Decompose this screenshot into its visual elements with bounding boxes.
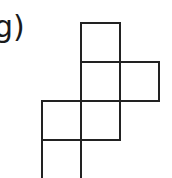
net-square-1 [81,62,120,101]
net-square-2 [120,62,159,101]
cube-net-diagram [0,0,172,178]
net-square-4 [81,101,120,140]
net-square-5 [42,140,81,178]
net-square-3 [42,101,81,140]
net-square-0 [81,23,120,62]
